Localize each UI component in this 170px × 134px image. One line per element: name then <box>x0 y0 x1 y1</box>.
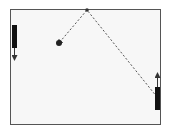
left-paddle[interactable] <box>12 25 17 48</box>
ball-trajectory-line <box>59 10 157 97</box>
ball <box>56 40 62 46</box>
right-paddle[interactable] <box>155 87 160 110</box>
game-canvas <box>0 0 170 134</box>
bounce-point <box>85 8 89 12</box>
